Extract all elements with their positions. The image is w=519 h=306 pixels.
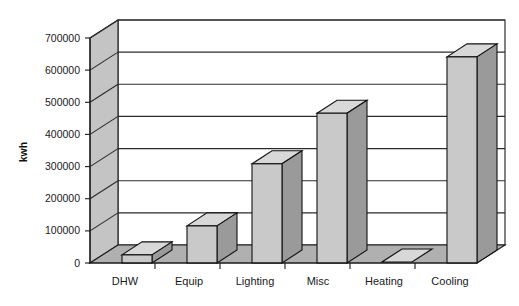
plot-left-wall bbox=[90, 20, 118, 263]
x-category-label-misc: Misc bbox=[307, 275, 330, 287]
bar-dhw-front bbox=[122, 255, 152, 263]
x-category-label-heating: Heating bbox=[365, 275, 403, 287]
bar-cooling-side bbox=[477, 44, 497, 263]
bar-misc-front bbox=[317, 113, 347, 263]
bar-misc[interactable] bbox=[317, 100, 367, 263]
bar-misc-side bbox=[347, 100, 367, 263]
x-category-label-lighting: Lighting bbox=[236, 275, 275, 287]
bar-cooling[interactable] bbox=[447, 44, 497, 263]
y-tick-label-100000: 100000 bbox=[45, 224, 80, 236]
y-axis-title: kwh bbox=[17, 142, 29, 162]
chart-container: 700000 600000 500000 400000 300000 20000… bbox=[0, 0, 519, 306]
bar-equip[interactable] bbox=[187, 213, 237, 263]
y-tick-label-0: 0 bbox=[74, 257, 80, 269]
bar-lighting-front bbox=[252, 164, 282, 263]
bar-lighting-side bbox=[282, 151, 302, 263]
bar-lighting[interactable] bbox=[252, 151, 302, 263]
x-axis-ticks bbox=[155, 263, 415, 269]
y-axis-tick-labels: 700000 600000 500000 400000 300000 20000… bbox=[45, 32, 80, 269]
y-tick-label-400000: 400000 bbox=[45, 128, 80, 140]
x-category-label-equip: Equip bbox=[175, 275, 203, 287]
y-tick-label-600000: 600000 bbox=[45, 64, 80, 76]
y-tick-label-700000: 700000 bbox=[45, 32, 80, 44]
x-axis-category-labels: DHW Equip Lighting Misc Heating Cooling bbox=[112, 275, 469, 287]
y-tick-label-200000: 200000 bbox=[45, 192, 80, 204]
bar-chart-3d: 700000 600000 500000 400000 300000 20000… bbox=[0, 0, 519, 306]
bar-equip-front bbox=[187, 226, 217, 263]
x-category-label-cooling: Cooling bbox=[431, 275, 468, 287]
y-axis-ticks bbox=[85, 38, 90, 263]
x-category-label-dhw: DHW bbox=[112, 275, 139, 287]
y-tick-label-500000: 500000 bbox=[45, 96, 80, 108]
y-tick-label-300000: 300000 bbox=[45, 160, 80, 172]
bar-cooling-front bbox=[447, 57, 477, 263]
